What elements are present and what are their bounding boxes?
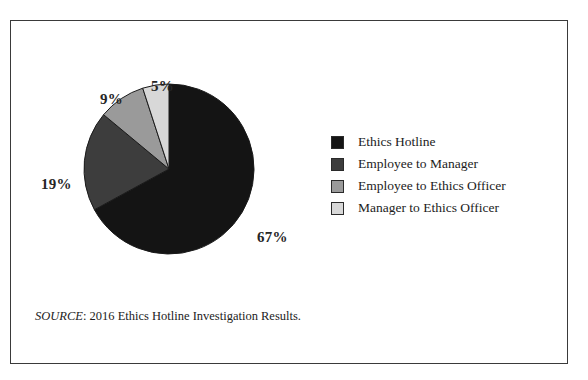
- legend-label: Employee to Manager: [358, 156, 478, 172]
- legend-item-ethics-hotline[interactable]: Ethics Hotline: [331, 131, 561, 153]
- source-note: SOURCE: 2016 Ethics Hotline Investigatio…: [35, 309, 301, 324]
- pie-label-employee-to-manager: 19%: [41, 176, 72, 193]
- legend-swatch-icon: [331, 136, 344, 149]
- source-text: : 2016 Ethics Hotline Investigation Resu…: [83, 309, 301, 323]
- legend-label: Ethics Hotline: [358, 134, 436, 150]
- legend-swatch-icon: [331, 180, 344, 193]
- legend-item-employee-to-manager[interactable]: Employee to Manager: [331, 153, 561, 175]
- pie-label-employee-to-ethics-officer: 9%: [100, 91, 123, 108]
- source-keyword: SOURCE: [35, 309, 83, 323]
- legend-label: Employee to Ethics Officer: [358, 178, 506, 194]
- figure-frame: 67% 19% 9% 5% Ethics Hotline Employee to…: [10, 20, 568, 364]
- pie-label-ethics-hotline: 67%: [257, 229, 288, 246]
- chart-legend: Ethics Hotline Employee to Manager Emplo…: [331, 131, 561, 219]
- pie-chart-area: 67% 19% 9% 5% Ethics Hotline Employee to…: [11, 21, 569, 365]
- legend-label: Manager to Ethics Officer: [358, 200, 499, 216]
- legend-swatch-icon: [331, 202, 344, 215]
- legend-item-employee-to-ethics-officer[interactable]: Employee to Ethics Officer: [331, 175, 561, 197]
- legend-swatch-icon: [331, 158, 344, 171]
- pie-label-manager-to-ethics-officer: 5%: [151, 78, 174, 95]
- legend-item-manager-to-ethics-officer[interactable]: Manager to Ethics Officer: [331, 197, 561, 219]
